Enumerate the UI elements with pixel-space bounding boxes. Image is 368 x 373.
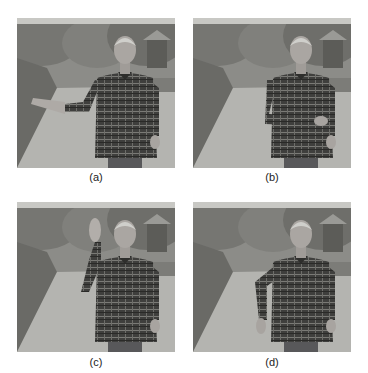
photo-d [193, 202, 351, 352]
hand-left [89, 218, 101, 242]
hand-left [314, 116, 328, 126]
photo-panel-d [193, 202, 351, 352]
house [323, 38, 343, 68]
hand-right [326, 135, 336, 149]
sky [193, 18, 351, 24]
shirt [95, 73, 157, 158]
house [147, 222, 167, 252]
shirt [95, 257, 157, 342]
hand-right [150, 135, 160, 149]
sky [193, 202, 351, 208]
caption-a: (a) [17, 171, 175, 183]
shirt [271, 257, 333, 342]
caption-d: (d) [193, 356, 351, 368]
photo-panel-c [17, 202, 175, 352]
photo-panel-b [193, 18, 351, 168]
house [323, 222, 343, 252]
house [147, 38, 167, 68]
photo-a [17, 18, 175, 168]
caption-c: (c) [17, 356, 175, 368]
photo-panel-a [17, 18, 175, 168]
hand-right [150, 319, 160, 333]
photo-c [17, 202, 175, 352]
sky [17, 18, 175, 24]
sky [17, 202, 175, 208]
hand-left [256, 318, 266, 334]
caption-b: (b) [193, 171, 351, 183]
hand-right [326, 319, 336, 333]
photo-b [193, 18, 351, 168]
